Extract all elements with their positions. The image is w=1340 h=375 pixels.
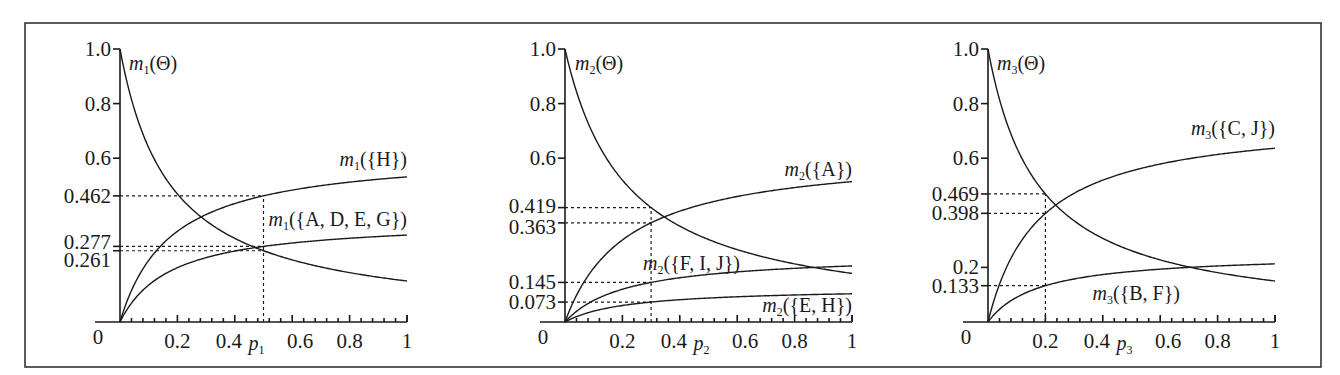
series-label: m2(Θ) [575,52,623,77]
x-tick-label: 0.6 [1155,329,1181,353]
y-tick-label: 0.8 [85,92,111,116]
y-tick-label: 0.8 [953,92,979,116]
y-tick-label: 0.2 [953,255,979,279]
x-axis-label: p2 [692,332,710,357]
origin-label: 0 [538,325,549,349]
curve-m3 [988,49,1275,281]
y-tick-label: 1.0 [953,37,979,61]
x-tick-label: 0.8 [781,329,807,353]
y-tick-label: 0.6 [953,146,979,170]
y-tick-label: 0.462 [64,184,111,208]
x-tick-label: 0.8 [1204,329,1230,353]
series-label: m1(Θ) [129,52,177,77]
figure-frame [25,23,1321,367]
x-tick-label: 0.4 [661,329,688,353]
x-tick-label: 0.4 [1084,329,1111,353]
series-label: m2({A}) [785,158,852,183]
series-label: m3({C, J}) [1191,117,1275,142]
y-tick-label: 0.145 [509,270,556,294]
x-tick-label: 0.6 [732,329,758,353]
y-tick-label: 1.0 [85,37,111,61]
x-axis-label: p1 [247,332,265,357]
panels: 0.20.40.60.81p100.2610.2770.4620.60.81.0… [64,37,1281,357]
chart-panel-2: 0.20.40.60.81p200.0730.1450.3630.4190.60… [509,37,858,357]
chart-panel-1: 0.20.40.60.81p100.2610.2770.4620.60.81.0… [64,37,413,357]
origin-label: 0 [961,325,972,349]
series-label: m2({E, H}) [762,294,852,319]
x-tick-label: 1 [847,329,858,353]
y-tick-label: 0.277 [64,230,111,254]
x-tick-label: 0.6 [287,329,313,353]
series-label: m3(Θ) [997,52,1045,77]
series-label: m1({H}) [340,148,407,173]
y-tick-label: 1.0 [530,37,556,61]
x-tick-label: 0.2 [609,329,635,353]
chart-panel-3: 0.20.40.60.81p300.1330.20.3980.4690.60.8… [932,37,1281,357]
figure: 0.20.40.60.81p100.2610.2770.4620.60.81.0… [0,0,1340,375]
origin-label: 0 [93,325,104,349]
y-tick-label: 0.363 [509,215,556,239]
x-tick-label: 0.2 [1032,329,1058,353]
series-label: m2({F, I, J}) [643,252,740,277]
y-tick-label: 0.6 [85,146,111,170]
y-tick-label: 0.419 [509,194,556,218]
y-tick-label: 0.6 [530,146,556,170]
series-label: m3({B, F}) [1093,282,1180,307]
x-tick-label: 0.8 [336,329,362,353]
x-tick-label: 1 [1270,329,1281,353]
series-label: m1({A, D, E, G}) [268,208,407,233]
y-tick-label: 0.8 [530,92,556,116]
x-axis-label: p3 [1115,332,1133,357]
x-tick-label: 0.4 [216,329,243,353]
x-tick-label: 1 [402,329,413,353]
x-tick-label: 0.2 [164,329,190,353]
y-tick-label: 0.469 [932,182,979,206]
